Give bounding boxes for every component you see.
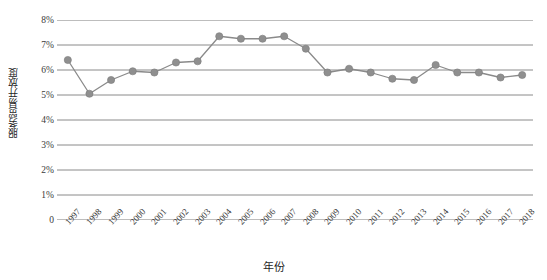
data-point-2003	[194, 58, 201, 65]
data-point-2011	[367, 69, 374, 76]
data-point-2012	[389, 75, 396, 82]
y-tick-5%: 5%	[32, 90, 54, 100]
y-tick-4%: 4%	[32, 115, 54, 125]
y-axis-tick-labels: 8%7%6%5%4%3%2%1%0	[28, 20, 54, 220]
data-point-2005	[237, 35, 244, 42]
y-tick-8%: 8%	[32, 15, 54, 25]
y-axis-title: 服务贸易开放度	[8, 68, 30, 138]
data-point-2017	[497, 74, 504, 81]
x-axis-tick-labels: 1997199819992000200120022003200420052006…	[57, 220, 547, 262]
data-point-2018	[519, 71, 526, 78]
y-tick-1%: 1%	[32, 190, 54, 200]
data-point-2006	[259, 35, 266, 42]
data-point-2000	[129, 68, 136, 75]
line-chart: 服务贸易开放度 8%7%6%5%4%3%2%1%0 19971998199920…	[0, 0, 547, 280]
data-point-1997	[64, 56, 71, 63]
data-point-1999	[107, 76, 114, 83]
data-point-1998	[86, 90, 93, 97]
data-point-2010	[345, 65, 352, 72]
y-tick-2%: 2%	[32, 165, 54, 175]
data-point-2007	[281, 33, 288, 40]
y-tick-3%: 3%	[32, 140, 54, 150]
gridlines	[57, 20, 533, 220]
data-point-2016	[475, 69, 482, 76]
data-point-2009	[324, 69, 331, 76]
data-point-2013	[410, 76, 417, 83]
data-point-2015	[454, 69, 461, 76]
y-tick-7%: 7%	[32, 40, 54, 50]
data-point-2008	[302, 45, 309, 52]
y-tick-0: 0	[32, 215, 54, 225]
data-point-2002	[172, 59, 179, 66]
chart-svg	[57, 20, 533, 220]
x-axis-title: 年份	[0, 258, 547, 274]
y-tick-6%: 6%	[32, 65, 54, 75]
data-point-2014	[432, 61, 439, 68]
plot-area	[57, 20, 533, 220]
data-point-2004	[216, 33, 223, 40]
data-point-2001	[151, 69, 158, 76]
